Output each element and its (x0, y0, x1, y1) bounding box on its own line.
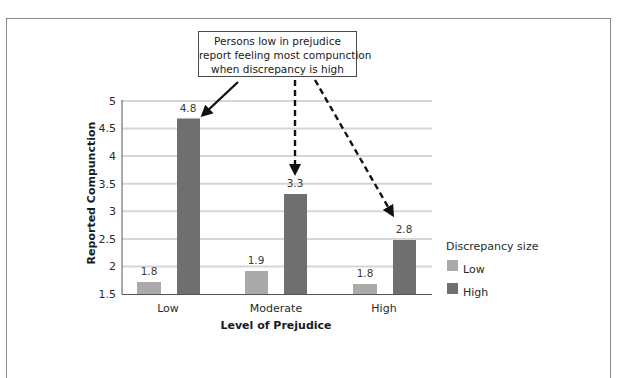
value-label: 2.8 (396, 223, 413, 235)
y-tick: 2.5 (99, 233, 117, 246)
bar-low-prejudice-low-discrepancy (137, 282, 161, 294)
annotation-line: report feeling most compunction (199, 48, 356, 62)
x-tick: Low (157, 302, 179, 315)
y-tick: 2 (109, 260, 116, 273)
x-axis-title: Level of Prejudice (220, 319, 331, 332)
annotation-line: Persons low in prejudice (199, 34, 356, 48)
y-tick: 5 (109, 95, 116, 108)
bar-moderate-prejudice-high-discrepancy (284, 194, 307, 294)
bars (137, 119, 416, 295)
annotation-arrows (205, 80, 391, 212)
legend-label-low: Low (463, 263, 485, 276)
bar-high-prejudice-low-discrepancy (353, 284, 377, 294)
x-axis-categories: Low Moderate High (157, 302, 396, 315)
dashed-arrow-icon (315, 80, 391, 212)
gridlines (122, 101, 432, 266)
y-axis-title: Reported Compunction (85, 122, 98, 265)
y-tick: 3 (109, 205, 116, 218)
annotation-callout: Persons low in prejudice report feeling … (198, 31, 357, 77)
value-label: 1.8 (141, 265, 158, 277)
solid-arrow-icon (205, 82, 238, 113)
legend-label-high: High (463, 286, 488, 299)
y-tick: 4.5 (99, 122, 117, 135)
legend-title: Discrepancy size (446, 240, 539, 253)
legend-swatch-low (447, 260, 458, 271)
y-tick: 4 (109, 150, 116, 163)
x-tick: High (371, 302, 396, 315)
value-label: 4.8 (180, 102, 197, 114)
annotation-line: when discrepancy is high (199, 62, 356, 76)
legend: Discrepancy size Low High (446, 240, 539, 299)
bar-low-prejudice-high-discrepancy (177, 119, 200, 295)
value-label: 1.8 (357, 267, 374, 279)
bar-high-prejudice-high-discrepancy (393, 240, 416, 294)
value-label: 3.3 (287, 177, 304, 189)
bar-moderate-prejudice-low-discrepancy (245, 271, 268, 294)
y-tick: 3.5 (99, 178, 117, 191)
x-tick: Moderate (250, 302, 303, 315)
y-tick: 1.5 (99, 288, 117, 301)
legend-swatch-high (447, 283, 458, 294)
y-axis-ticks: 1.5 2 2.5 3 3.5 4 4.5 5 (99, 95, 117, 301)
value-label: 1.9 (248, 254, 265, 266)
